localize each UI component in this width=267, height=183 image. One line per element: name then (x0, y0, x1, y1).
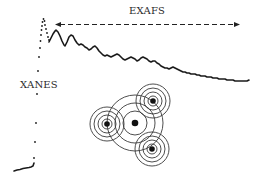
exafs-oscillation-curve (49, 30, 249, 81)
scatterer-atom-bottom-right (135, 132, 169, 166)
xanes-label: XANES (20, 80, 58, 90)
xafs-spectrum-figure (0, 0, 267, 183)
exafs-range-arrow (55, 22, 240, 27)
xafs-diagram: EXAFS XANES (0, 0, 267, 183)
absorber-atom (107, 95, 163, 151)
scatterer-atom-top-right (136, 84, 170, 118)
arrowhead-left-icon (55, 22, 61, 27)
pre-edge-baseline (14, 163, 34, 171)
arrowhead-right-icon (234, 22, 240, 27)
exafs-label: EXAFS (129, 6, 165, 16)
scatterer-atom-left (90, 107, 124, 141)
